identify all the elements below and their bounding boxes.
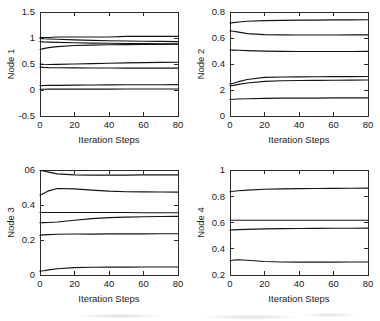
y-tick-label: 0	[30, 269, 35, 280]
x-tick-label: 40	[104, 278, 115, 289]
x-tick-label: 80	[173, 278, 184, 289]
y-tick-label: 0.6	[212, 217, 225, 228]
x-axis-label: Iteration Steps	[78, 134, 140, 145]
data-trace	[230, 228, 368, 230]
x-tick-label: 80	[173, 119, 184, 130]
data-trace	[40, 67, 178, 68]
data-trace	[230, 260, 368, 262]
x-tick-label: 60	[138, 278, 149, 289]
y-axis-label: Node 1	[5, 49, 16, 80]
x-tick-label: 60	[328, 278, 339, 289]
x-axis-label: Iteration Steps	[268, 134, 330, 145]
y-axis-label: Node 4	[195, 207, 206, 238]
chart-panel-node-2: 020.40.60.8020406080Iteration StepsNode …	[190, 0, 380, 160]
x-tick-label: 20	[259, 278, 270, 289]
data-trace	[40, 85, 178, 86]
y-tick-label: 1	[220, 164, 225, 175]
data-trace	[230, 50, 368, 52]
x-axis-label: Iteration Steps	[78, 293, 140, 304]
y-tick-label: 0	[220, 110, 225, 121]
data-trace	[40, 39, 178, 42]
axes-frame	[40, 170, 178, 275]
data-trace	[40, 234, 178, 235]
x-tick-label: 40	[294, 119, 305, 130]
chart-panel-node-4: 0.20.40.60.81020406080Iteration StepsNod…	[190, 160, 380, 321]
data-trace	[40, 267, 178, 271]
y-tick-label: 1.5	[22, 6, 35, 17]
data-trace	[40, 44, 178, 49]
y-tick-label: 0.2	[22, 234, 35, 245]
data-trace	[40, 36, 178, 37]
x-tick-label: 20	[69, 119, 80, 130]
y-tick-label: 0	[30, 84, 35, 95]
y-tick-label: -0.5	[19, 110, 35, 121]
data-trace	[230, 31, 368, 35]
y-tick-label: 0.8	[212, 6, 225, 17]
x-tick-label: 60	[328, 119, 339, 130]
data-trace	[40, 216, 178, 222]
y-tick-label: 2	[220, 84, 225, 95]
y-tick-label: 0.5	[22, 58, 35, 69]
x-axis-label: Iteration Steps	[268, 293, 330, 304]
plot-svg-node-1: -0.500.511.5020406080Iteration StepsNode…	[0, 0, 190, 160]
axes-frame	[230, 12, 368, 116]
y-tick-label: 1	[30, 32, 35, 43]
axes-frame	[230, 170, 368, 275]
y-axis-label: Node 3	[5, 207, 16, 238]
x-tick-label: 20	[69, 278, 80, 289]
x-tick-label: 60	[138, 119, 149, 130]
x-tick-label: 80	[363, 278, 374, 289]
data-trace	[230, 20, 368, 23]
data-trace	[40, 189, 178, 196]
y-tick-label: 06	[24, 164, 35, 175]
chart-panel-node-3: 00.20.406020406080Iteration StepsNode 3	[0, 160, 190, 321]
data-trace	[40, 62, 178, 64]
x-tick-label: 40	[294, 278, 305, 289]
y-tick-label: 0.6	[212, 32, 225, 43]
y-tick-label: 0.2	[212, 269, 225, 280]
plot-svg-node-2: 020.40.60.8020406080Iteration StepsNode …	[190, 0, 380, 160]
x-tick-label: 0	[37, 119, 42, 130]
data-trace	[230, 98, 368, 99]
data-trace	[230, 80, 368, 86]
x-tick-label: 20	[259, 119, 270, 130]
y-tick-label: 0.4	[22, 199, 35, 210]
chart-panel-node-1: -0.500.511.5020406080Iteration StepsNode…	[0, 0, 190, 160]
data-trace	[40, 42, 178, 44]
x-tick-label: 40	[104, 119, 115, 130]
y-tick-label: 0.4	[212, 58, 225, 69]
figure-canvas: -0.500.511.5020406080Iteration StepsNode…	[0, 0, 380, 321]
plot-svg-node-4: 0.20.40.60.81020406080Iteration StepsNod…	[190, 160, 380, 321]
x-tick-label: 0	[227, 119, 232, 130]
x-tick-label: 0	[37, 278, 42, 289]
y-axis-label: Node 2	[195, 49, 206, 80]
data-trace	[230, 188, 368, 192]
y-tick-label: 0.8	[212, 191, 225, 202]
x-tick-label: 0	[227, 278, 232, 289]
x-tick-label: 80	[363, 119, 374, 130]
y-tick-label: 0.4	[212, 243, 225, 254]
plot-svg-node-3: 00.20.406020406080Iteration StepsNode 3	[0, 160, 190, 321]
